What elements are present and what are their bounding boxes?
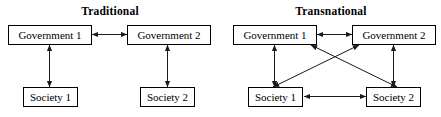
panel-transnational: Transnational G	[221, 0, 441, 117]
node-society-2: Society 2	[140, 87, 195, 107]
node-label: Society 1	[30, 92, 71, 103]
node-label: Government 2	[137, 30, 200, 41]
panel-traditional: Traditional Government 1 Government 2	[0, 0, 220, 117]
node-label: Society 2	[373, 92, 414, 103]
node-society-1: Society 1	[248, 87, 303, 107]
node-government-1: Government 1	[233, 25, 317, 45]
node-society-2: Society 2	[366, 87, 421, 107]
node-label: Society 1	[255, 92, 296, 103]
node-government-1: Government 1	[8, 25, 92, 45]
node-government-2: Government 2	[127, 25, 211, 45]
figure-canvas: Traditional Government 1 Government 2	[0, 0, 441, 117]
edge-gov1-soc2	[311, 45, 397, 87]
node-label: Government 1	[18, 30, 81, 41]
node-society-1: Society 1	[23, 87, 78, 107]
node-government-2: Government 2	[352, 25, 436, 45]
node-label: Government 1	[243, 30, 306, 41]
node-label: Government 2	[362, 30, 425, 41]
node-label: Society 2	[147, 92, 188, 103]
edge-gov2-soc1	[273, 45, 359, 87]
